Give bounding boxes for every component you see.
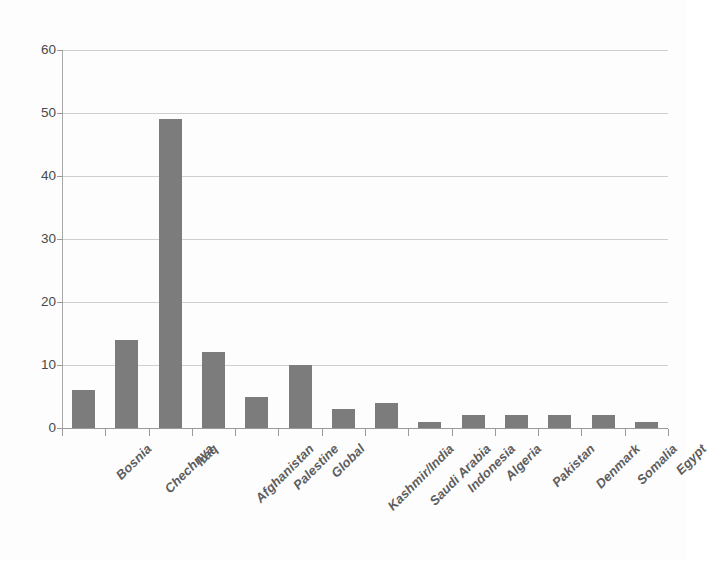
y-tick-label-20: 20 xyxy=(22,295,56,309)
y-tick-mark-10 xyxy=(57,365,63,366)
x-tick-12 xyxy=(581,429,582,436)
y-tick-mark-40 xyxy=(57,176,63,177)
y-tick-label-60: 60 xyxy=(22,43,56,57)
x-axis-label-pakistan: Pakistan xyxy=(548,441,597,490)
y-tick-mark-50 xyxy=(57,113,63,114)
y-tick-mark-30 xyxy=(57,239,63,240)
y-tick-label-40: 40 xyxy=(22,169,56,183)
bar-palestine xyxy=(245,397,268,429)
gridline-60 xyxy=(62,50,668,51)
x-tick-3 xyxy=(192,429,193,436)
y-tick-label-50: 50 xyxy=(22,106,56,120)
x-tick-5 xyxy=(278,429,279,436)
bar-pakistan xyxy=(505,415,528,428)
y-axis-tick-labels: 0102030405060 xyxy=(14,0,56,561)
y-tick-mark-60 xyxy=(57,50,63,51)
x-tick-0 xyxy=(62,429,63,436)
x-axis-label-somalia: Somalia xyxy=(634,441,680,487)
y-tick-label-0: 0 xyxy=(22,421,56,435)
y-tick-label-30: 30 xyxy=(22,232,56,246)
bar-afghanistan xyxy=(202,352,225,428)
gridline-40 xyxy=(62,176,668,177)
bar-somalia xyxy=(592,415,615,428)
gridline-10 xyxy=(62,365,668,366)
y-tick-mark-20 xyxy=(57,302,63,303)
bar-denmark xyxy=(548,415,571,428)
x-tick-11 xyxy=(538,429,539,436)
x-tick-2 xyxy=(149,429,150,436)
gridline-20 xyxy=(62,302,668,303)
x-tick-13 xyxy=(625,429,626,436)
x-axis-label-bosnia: Bosnia xyxy=(113,441,155,483)
gridline-50 xyxy=(62,113,668,114)
x-tick-6 xyxy=(322,429,323,436)
x-tick-8 xyxy=(408,429,409,436)
plot-area xyxy=(62,50,668,428)
x-tick-7 xyxy=(365,429,366,436)
bar-bosnia xyxy=(72,390,95,428)
gridline-30 xyxy=(62,239,668,240)
bar-chechnya xyxy=(115,340,138,428)
x-axis-line xyxy=(62,428,668,429)
x-tick-4 xyxy=(235,429,236,436)
x-tick-9 xyxy=(452,429,453,436)
x-tick-1 xyxy=(105,429,106,436)
x-axis-label-egypt: Egypt xyxy=(673,441,710,478)
y-tick-label-10: 10 xyxy=(22,358,56,372)
bar-algeria xyxy=(462,415,485,428)
bar-global xyxy=(289,365,312,428)
x-tick-10 xyxy=(495,429,496,436)
x-tick-14 xyxy=(668,429,669,436)
bar-kashmir-india xyxy=(332,409,355,428)
x-axis-label-denmark: Denmark xyxy=(592,441,642,491)
bar-iraq xyxy=(159,119,182,428)
bar-saudi-arabia xyxy=(375,403,398,428)
